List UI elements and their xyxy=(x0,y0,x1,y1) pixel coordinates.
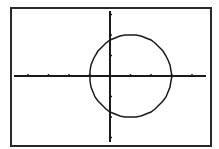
calculator-graph-screen xyxy=(0,0,219,149)
